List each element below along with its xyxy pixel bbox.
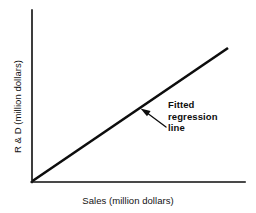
annotation-line-3: line [168, 122, 218, 134]
annotation-line-2: regression [168, 111, 218, 123]
regression-scatter-figure: R & D (million dollars) Sales (million d… [0, 0, 256, 213]
annotation-line-1: Fitted [168, 99, 218, 111]
plot-area [0, 0, 256, 213]
x-axis-label: Sales (million dollars) [0, 195, 256, 206]
y-axis-label: R & D (million dollars) [11, 0, 25, 213]
callout-leader-line [147, 113, 167, 128]
fitted-regression-line-annotation: Fitted regression line [168, 99, 218, 134]
